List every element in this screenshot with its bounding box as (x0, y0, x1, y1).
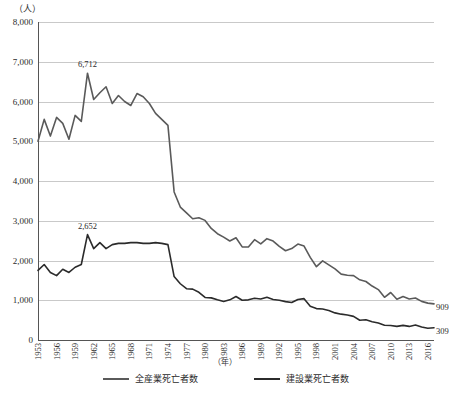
x-tick-label: 1974 (163, 343, 173, 360)
legend-label: 全産業死亡者数 (135, 372, 198, 385)
legend-item-1[interactable]: 全産業死亡者数 (103, 372, 198, 385)
y-tick-label: 6,000 (0, 97, 33, 107)
x-tick-label: 2001 (330, 343, 340, 360)
x-tick-label: 1983 (219, 343, 229, 360)
legend-swatch (103, 378, 129, 380)
x-tick-label: 1959 (70, 343, 80, 360)
x-tick-label: 1956 (52, 343, 62, 360)
y-tick-label: 8,000 (0, 17, 33, 27)
peak-annotation: 6,712 (78, 59, 97, 69)
x-tick-label: 1995 (293, 343, 303, 360)
x-tick-label: 1986 (237, 343, 247, 360)
x-tick-label: 1980 (200, 343, 210, 360)
x-tick-label: 2007 (367, 343, 377, 360)
x-tick-label: 2016 (423, 343, 433, 360)
end-value-annotation: 309 (436, 326, 449, 336)
y-tick-label: 5,000 (0, 136, 33, 146)
x-tick-label: 1965 (107, 343, 117, 360)
series-svg (38, 22, 434, 340)
legend-label: 建設業死亡者数 (286, 372, 349, 385)
chart-legend: 全産業死亡者数建設業死亡者数 (0, 372, 451, 385)
plot-area: 6,7129092,652309 (38, 22, 434, 340)
y-tick-label: 0 (0, 335, 33, 345)
y-tick-label: 3,000 (0, 216, 33, 226)
series-line-1 (38, 73, 434, 304)
gridline (38, 340, 434, 341)
x-tick-label: 2004 (349, 343, 359, 360)
x-tick-label: 1989 (256, 343, 266, 360)
x-tick-label: 1962 (89, 343, 99, 360)
x-tick-label: 1968 (126, 343, 136, 360)
y-axis-unit-label: （人） (14, 2, 41, 15)
y-tick-label: 2,000 (0, 256, 33, 266)
x-tick-label: 2013 (404, 343, 414, 360)
end-value-annotation: 909 (436, 302, 449, 312)
y-tick-label: 1,000 (0, 295, 33, 305)
chart-container: （人） （年） 01,0002,0003,0004,0005,0006,0007… (0, 0, 451, 393)
peak-annotation: 2,652 (78, 221, 97, 231)
legend-swatch (254, 378, 280, 380)
y-tick-label: 4,000 (0, 176, 33, 186)
x-tick-label: 1971 (144, 343, 154, 360)
x-tick-label: 1953 (33, 343, 43, 360)
series-line-2 (38, 235, 434, 329)
x-tick-label: 1998 (311, 343, 321, 360)
legend-item-2[interactable]: 建設業死亡者数 (254, 372, 349, 385)
y-tick-label: 7,000 (0, 57, 33, 67)
x-tick-label: 1977 (182, 343, 192, 360)
x-tick-label: 2010 (386, 343, 396, 360)
x-tick-label: 1992 (274, 343, 284, 360)
